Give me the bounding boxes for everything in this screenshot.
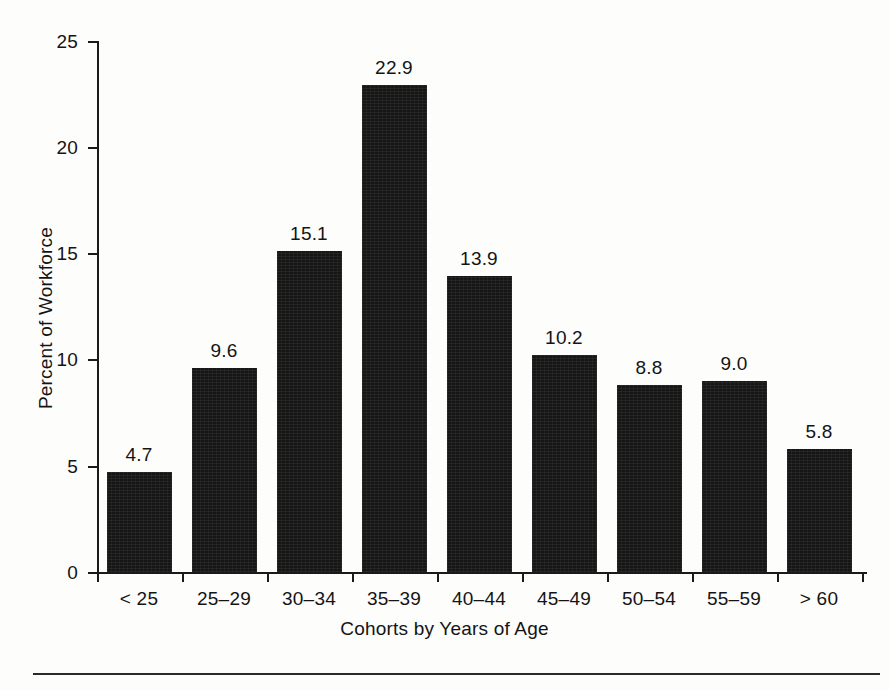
x-axis-title: Cohorts by Years of Age bbox=[0, 618, 889, 640]
bar-8 bbox=[787, 449, 852, 572]
bar-0 bbox=[107, 472, 172, 572]
bar-5 bbox=[532, 355, 597, 572]
x-axis-tick-8 bbox=[777, 573, 779, 582]
bar-value-label-3: 22.9 bbox=[339, 57, 449, 79]
bar-3 bbox=[362, 85, 427, 572]
x-axis-tick-0 bbox=[97, 573, 99, 582]
bar-7 bbox=[702, 381, 767, 572]
bar-value-label-4: 13.9 bbox=[424, 248, 534, 270]
bar-6 bbox=[617, 385, 682, 572]
y-axis-tick-label-25: 25 bbox=[22, 31, 78, 53]
x-axis-tick-9 bbox=[862, 573, 864, 582]
bar-value-label-2: 15.1 bbox=[254, 223, 364, 245]
x-axis-tick-7 bbox=[692, 573, 694, 582]
plot-area: 0 5 10 15 20 25 4.7 9.6 1 bbox=[0, 0, 889, 691]
x-axis-tick-6 bbox=[607, 573, 609, 582]
bar-value-label-8: 5.8 bbox=[764, 421, 874, 443]
x-axis-category-label-8: > 60 bbox=[764, 588, 874, 610]
y-axis-tick-label-20: 20 bbox=[22, 137, 78, 159]
bar-4 bbox=[447, 276, 512, 572]
bar-value-label-5: 10.2 bbox=[509, 327, 619, 349]
bar-value-label-7: 9.0 bbox=[679, 353, 789, 375]
bar-1 bbox=[192, 368, 257, 572]
y-axis-tick-label-5: 5 bbox=[22, 456, 78, 478]
y-axis-title: Percent of Workforce bbox=[35, 208, 57, 428]
y-axis-tick-10 bbox=[88, 359, 98, 361]
x-axis-line bbox=[97, 572, 867, 574]
y-axis-line bbox=[97, 41, 99, 574]
y-axis-tick-20 bbox=[88, 147, 98, 149]
y-axis-tick-label-0: 0 bbox=[22, 562, 78, 584]
y-axis-tick-5 bbox=[88, 466, 98, 468]
footer-divider bbox=[33, 673, 880, 675]
y-axis-tick-15 bbox=[88, 253, 98, 255]
bar-value-label-1: 9.6 bbox=[169, 340, 279, 362]
x-axis-tick-2 bbox=[267, 573, 269, 582]
y-axis-tick-25 bbox=[88, 41, 98, 43]
x-axis-tick-3 bbox=[352, 573, 354, 582]
bar-2 bbox=[277, 251, 342, 572]
bar-chart-figure: 0 5 10 15 20 25 4.7 9.6 1 bbox=[0, 0, 889, 691]
x-axis-tick-4 bbox=[437, 573, 439, 582]
bar-value-label-0: 4.7 bbox=[84, 444, 194, 466]
x-axis-tick-5 bbox=[522, 573, 524, 582]
x-axis-tick-1 bbox=[182, 573, 184, 582]
